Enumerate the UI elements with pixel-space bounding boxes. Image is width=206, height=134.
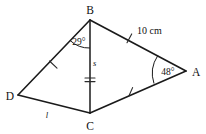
angle-label-b: 29° <box>72 37 86 47</box>
side-variable-label-bc: s <box>93 58 97 68</box>
figure-canvas: B A C D 29° 48° 10 cm s l <box>0 0 206 134</box>
vertex-label-c: C <box>86 120 94 132</box>
vertex-label-b: B <box>86 4 94 16</box>
angle-arc-a <box>152 56 157 84</box>
segment-db <box>18 20 90 95</box>
vertex-label-d: D <box>6 90 14 102</box>
side-length-label-ba: 10 cm <box>137 25 162 36</box>
geometry-diagram: B A C D 29° 48° 10 cm s l <box>0 0 206 134</box>
angle-label-a: 48° <box>161 67 175 77</box>
tick-mark-db <box>50 61 58 68</box>
segment-cd <box>18 95 90 113</box>
vertex-label-a: A <box>192 66 201 78</box>
side-variable-label-dc: l <box>46 110 49 120</box>
segment-ac <box>90 71 186 113</box>
